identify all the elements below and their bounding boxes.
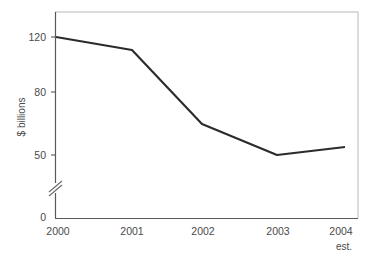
x-tick-label-2001: 2001: [120, 225, 144, 237]
chart-container: 120 80 50 0 $ billions 2000 2001 2002 20…: [0, 0, 373, 259]
plot-area-background: [55, 12, 358, 218]
line-chart: 120 80 50 0 $ billions 2000 2001 2002 20…: [0, 0, 373, 259]
x-tick-label-2000: 2000: [46, 225, 70, 237]
y-tick-label-50: 50: [34, 149, 46, 161]
x-tick-label-2003: 2003: [266, 225, 290, 237]
y-tick-label-0: 0: [40, 211, 46, 223]
y-axis-title: $ billions: [16, 98, 27, 137]
y-tick-label-80: 80: [34, 86, 46, 98]
x-tick-label-2004: 2004: [329, 225, 353, 237]
y-tick-label-120: 120: [28, 31, 46, 43]
x-tick-label-2002: 2002: [191, 225, 215, 237]
x-tick-sublabel-2004-est: est.: [336, 241, 352, 252]
